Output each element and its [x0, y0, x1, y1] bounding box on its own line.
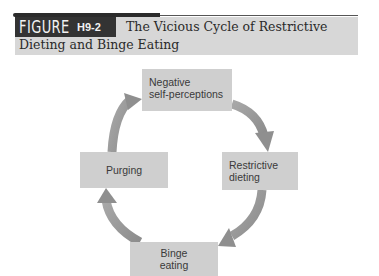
arrow-top-to-right-icon	[232, 104, 274, 152]
node-purging: Purging	[80, 152, 168, 188]
node-text: Binge	[130, 247, 218, 259]
arrow-right-to-bottom-icon	[218, 190, 262, 247]
arrow-left-to-top-icon	[112, 93, 142, 152]
node-negative-self-perceptions: Negative self-perceptions	[142, 69, 232, 111]
node-text: self-perceptions	[149, 88, 232, 100]
node-binge-eating: Binge eating	[130, 242, 218, 276]
node-text: Restrictive	[229, 159, 298, 171]
arrow-bottom-to-left-icon	[97, 188, 140, 242]
node-text: dieting	[229, 171, 298, 183]
node-text: eating	[130, 259, 218, 271]
node-text: Purging	[80, 164, 168, 176]
node-restrictive-dieting: Restrictive dieting	[222, 152, 298, 190]
node-text: Negative	[149, 76, 232, 88]
